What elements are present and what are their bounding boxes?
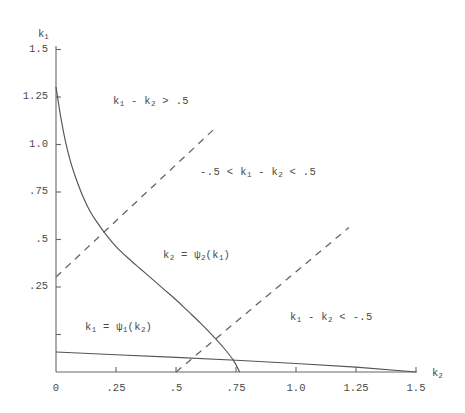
plot-canvas bbox=[0, 0, 465, 413]
region-middle-mid: - k bbox=[251, 166, 278, 178]
y-tick-label-0.5: .5 bbox=[12, 234, 48, 245]
region-above-mid: - k bbox=[124, 95, 151, 107]
x-tick-label-0.5: .5 bbox=[162, 383, 190, 394]
curve-psi2-mid: = ψ bbox=[174, 249, 201, 261]
region-middle-lead: -.5 < k bbox=[200, 166, 247, 178]
x-tick-label-0.75: .75 bbox=[220, 383, 252, 394]
region-middle-tail: < .5 bbox=[283, 166, 317, 178]
curve-psi1-lead: k bbox=[85, 321, 92, 333]
y-axis-title: k1 bbox=[38, 29, 49, 42]
curve-psi2-tail: (k bbox=[206, 249, 219, 261]
region-below-lead: k bbox=[290, 311, 297, 323]
y-tick-label-1.5: 1.5 bbox=[12, 44, 48, 55]
curve-label-psi1: k1 = ψ1(k2) bbox=[85, 322, 152, 335]
curve-psi1-mid: = ψ bbox=[96, 321, 123, 333]
x-axis-title-subscript: 2 bbox=[438, 372, 443, 380]
region-above-lead: k bbox=[113, 95, 120, 107]
y-tick-label-0.75: .75 bbox=[12, 186, 48, 197]
x-tick-label-1.0: 1.0 bbox=[280, 383, 312, 394]
curve-label-psi2: k2 = ψ2(k1) bbox=[163, 250, 230, 263]
y-tick-label-1.25: 1.25 bbox=[12, 91, 48, 102]
chart-figure: k1 k2 1.5 1.25 1.0 .75 .5 .25 0 .25 .5 .… bbox=[0, 0, 465, 413]
region-below-tail: < -.5 bbox=[333, 311, 373, 323]
x-axis-title: k2 bbox=[432, 368, 443, 381]
x-tick-label-0.25: .25 bbox=[100, 383, 132, 394]
curve-psi1-close: ) bbox=[145, 321, 152, 333]
region-above-tail: > .5 bbox=[156, 95, 190, 107]
y-tick-label-0.25: .25 bbox=[12, 281, 48, 292]
region-label-above: k1 - k2 > .5 bbox=[113, 96, 189, 109]
x-tick-label-0: 0 bbox=[48, 383, 64, 394]
y-tick-label-1.0: 1.0 bbox=[12, 139, 48, 150]
region-label-middle: -.5 < k1 - k2 < .5 bbox=[200, 167, 316, 180]
curve-psi2-lead: k bbox=[163, 249, 170, 261]
curve-psi1-tail: (k bbox=[128, 321, 141, 333]
region-below-mid: - k bbox=[301, 311, 328, 323]
region-label-below: k1 - k2 < -.5 bbox=[290, 312, 373, 325]
y-axis-title-subscript: 1 bbox=[44, 33, 49, 41]
curve-psi2-close: ) bbox=[223, 249, 230, 261]
x-tick-label-1.5: 1.5 bbox=[400, 383, 432, 394]
x-tick-label-1.25: 1.25 bbox=[338, 383, 374, 394]
